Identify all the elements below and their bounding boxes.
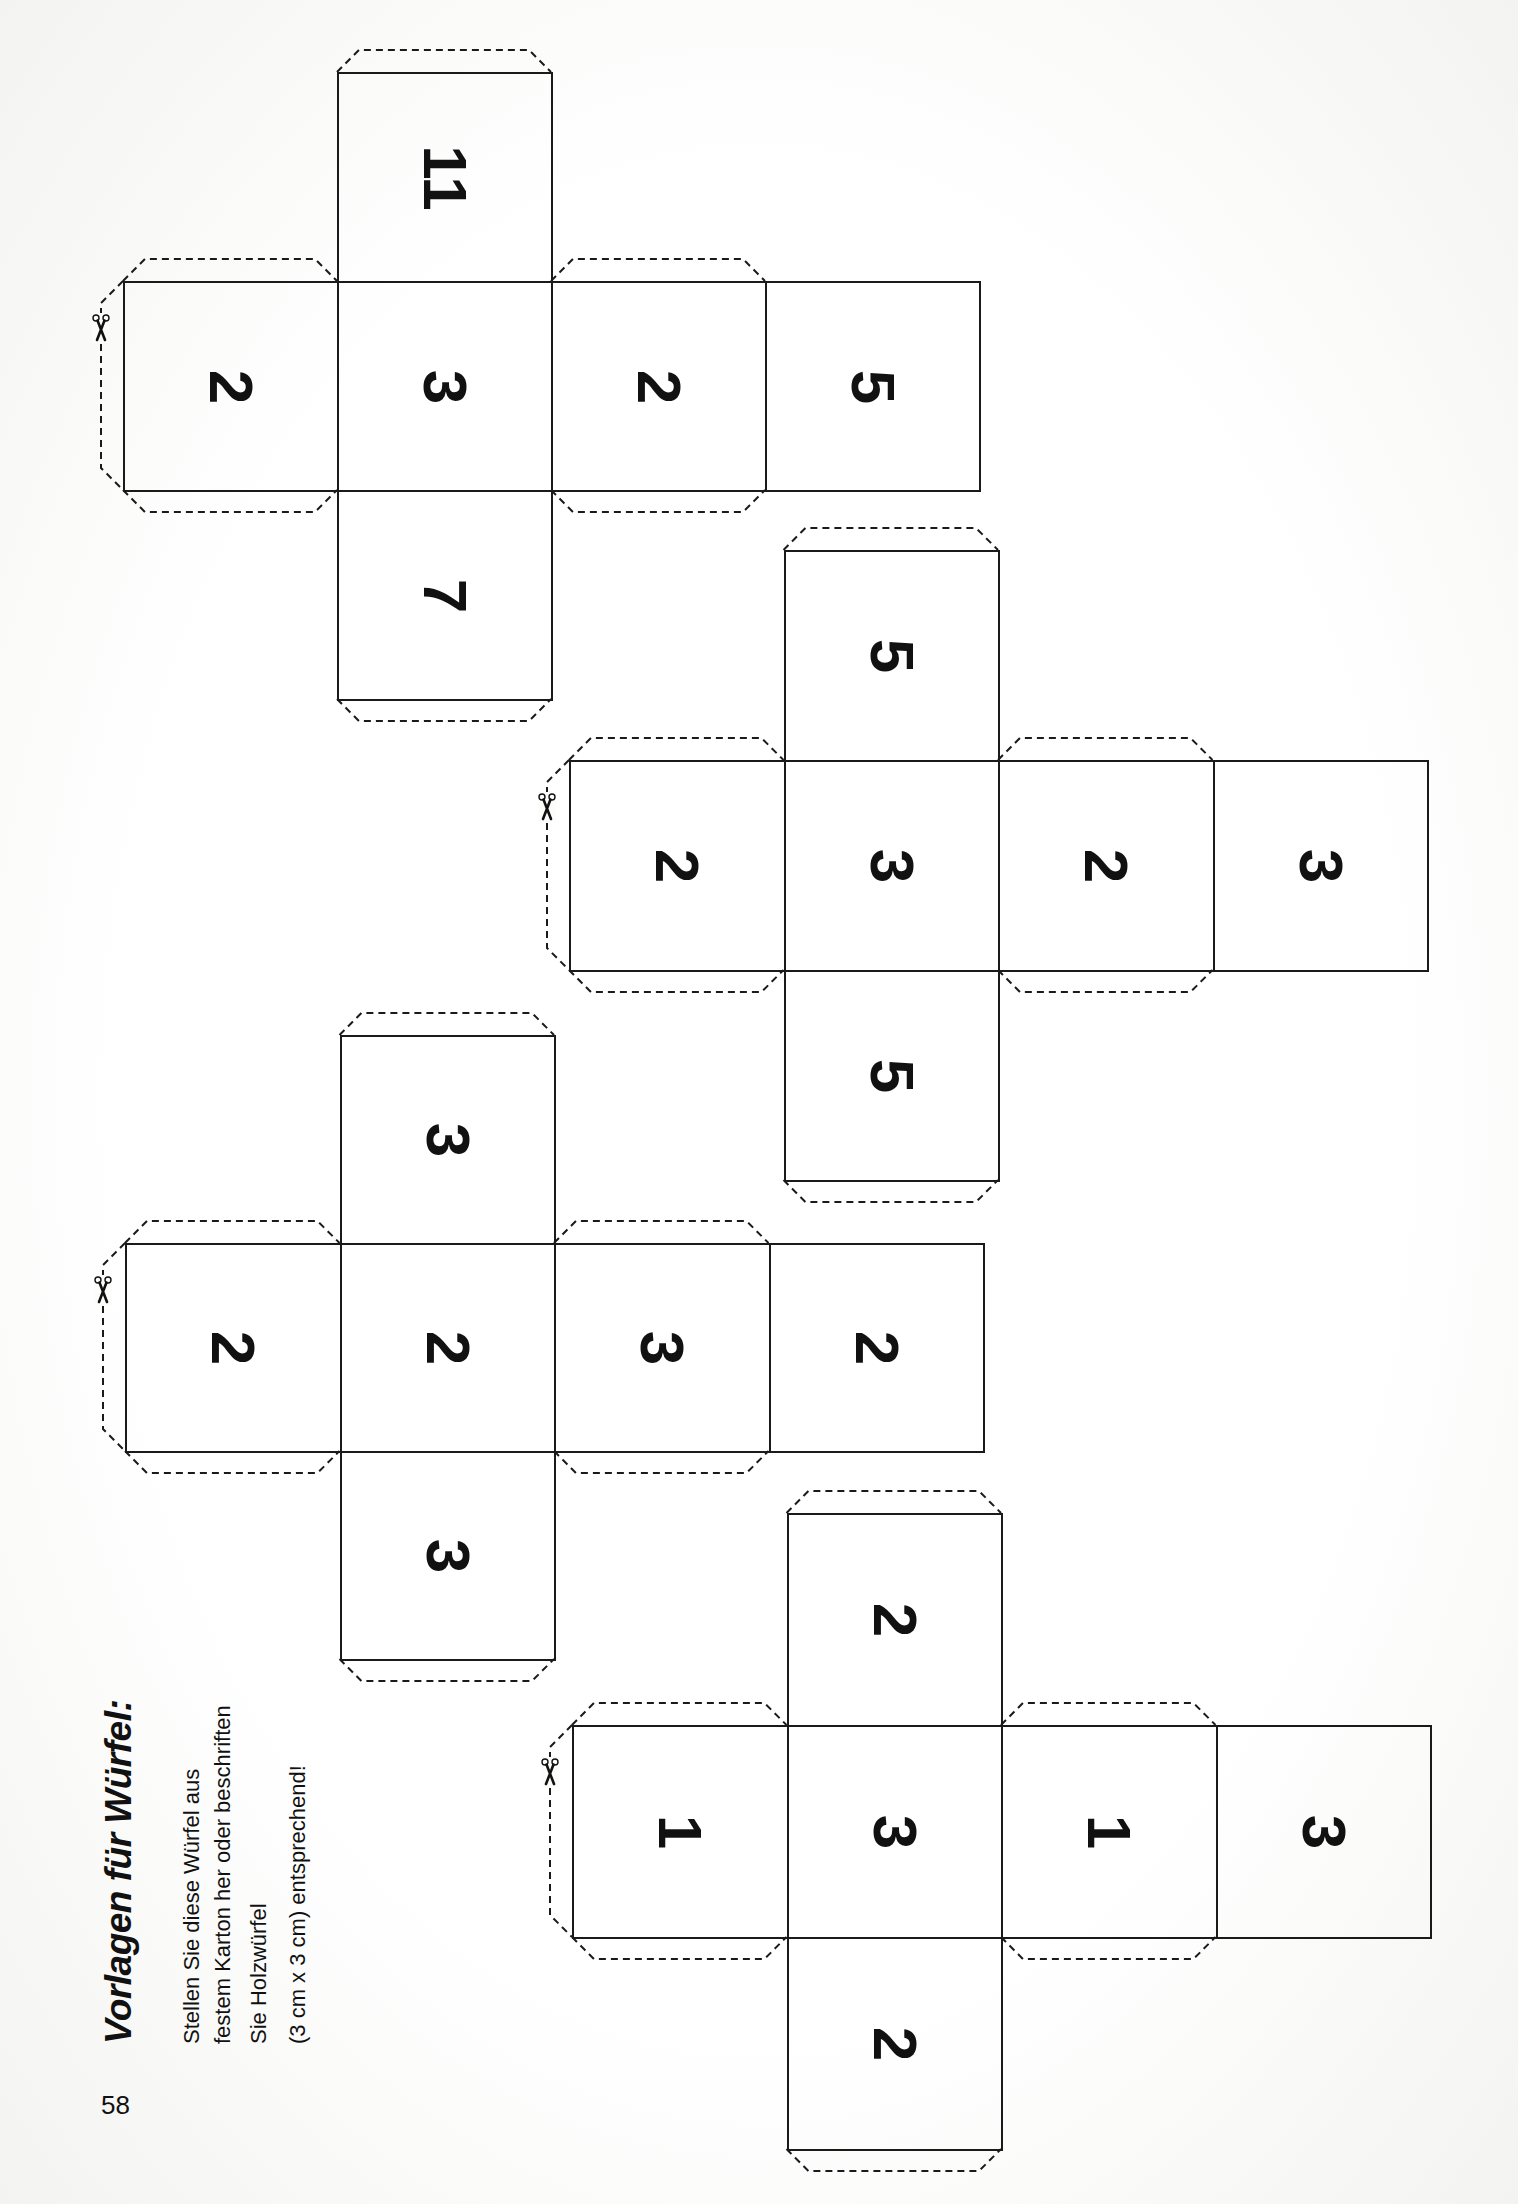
- scissors-icon: [541, 1757, 559, 1787]
- face-number: 2: [1075, 849, 1137, 883]
- face-number: 2: [864, 1603, 926, 1637]
- die-net-1-flap-col3-bottom: [551, 490, 765, 512]
- face-number: 5: [861, 1059, 923, 1093]
- die-net-2-flap-col3-bottom: [998, 970, 1213, 992]
- instruction-line-4: (3 cm x 3 cm) entsprechend!: [287, 1765, 309, 2044]
- face-number: 3: [414, 369, 476, 403]
- die-net-1-flap-top: [337, 50, 551, 72]
- die-net-4-face-row-1: 1: [572, 1725, 789, 1939]
- die-net-4-flap-col3-top: [1001, 1703, 1216, 1725]
- page-title: Vorlagen für Würfel:: [98, 1700, 140, 2044]
- face-number: 3: [861, 849, 923, 883]
- face-number: 3: [417, 1123, 479, 1157]
- face-number: 1: [1078, 1815, 1140, 1849]
- scissors-icon: [538, 792, 556, 822]
- page-number: 58: [101, 2090, 130, 2121]
- die-net-3-face-row-2: 2: [340, 1243, 557, 1453]
- face-number: 7: [414, 578, 476, 612]
- die-net-2-flap-top: [784, 528, 999, 550]
- die-net-3-flap-top: [340, 1013, 555, 1035]
- die-net-3-face-row-1: 2: [125, 1243, 342, 1453]
- die-net-4-face-row-4: 3: [1216, 1725, 1433, 1939]
- face-number: 3: [1293, 1815, 1355, 1849]
- die-net-2-face-row-2: 3: [784, 760, 1001, 972]
- die-net-1-flap-left-bottom: [123, 490, 337, 512]
- instruction-line-2: festem Karton her oder beschriften: [212, 1705, 234, 2044]
- scissors-icon: [94, 1275, 112, 1305]
- die-net-3-face-row-3: 3: [554, 1243, 771, 1453]
- face-number: 3: [631, 1331, 693, 1365]
- die-net-3-flap-col3-top: [554, 1221, 769, 1243]
- instruction-line-3: Sie Holzwürfel: [248, 1903, 270, 2044]
- die-net-2-flap-col3-top: [998, 738, 1213, 760]
- die-net-1-face-bottom: 7: [337, 490, 553, 701]
- die-net-4-flap-top: [787, 1491, 1002, 1513]
- die-net-2-flap-left-top: [569, 738, 784, 760]
- die-net-1-flap-left-top: [123, 259, 337, 281]
- die-net-3-flap-col3-bottom: [554, 1451, 769, 1473]
- die-net-3-face-top: 3: [340, 1035, 557, 1245]
- die-net-4-face-row-2: 3: [787, 1725, 1004, 1939]
- instruction-line-1: Stellen Sie diese Würfel aus: [181, 1769, 203, 2044]
- face-number: 2: [646, 849, 708, 883]
- die-net-4-face-bottom: 2: [787, 1937, 1004, 2151]
- face-number: 5: [861, 639, 923, 673]
- face-number: 2: [864, 2027, 926, 2061]
- die-net-3-face-bottom: 3: [340, 1451, 557, 1661]
- face-number: 2: [417, 1331, 479, 1365]
- scissors-icon: [92, 313, 110, 343]
- die-net-1-flap-col3-top: [551, 259, 765, 281]
- die-net-4-face-row-3: 1: [1001, 1725, 1218, 1939]
- die-net-2-face-top: 5: [784, 550, 1001, 762]
- die-net-1-face-top: 11: [337, 72, 553, 283]
- die-net-3-flap-left-top: [125, 1221, 340, 1243]
- die-net-4-flap-col3-bottom: [1001, 1937, 1216, 1959]
- face-number: 2: [846, 1331, 908, 1365]
- die-net-3-flap-bottom: [340, 1659, 555, 1681]
- die-net-2-flap-bottom: [784, 1180, 999, 1202]
- die-net-1-face-row-2: 3: [337, 281, 553, 492]
- die-net-2-flap-left-bottom: [569, 970, 784, 992]
- face-number: 3: [1290, 849, 1352, 883]
- die-net-1-face-row-4: 5: [765, 281, 981, 492]
- die-net-2-face-row-3: 2: [998, 760, 1215, 972]
- face-number: 2: [200, 369, 262, 403]
- die-net-3-face-row-4: 2: [769, 1243, 986, 1453]
- face-number: 1: [649, 1815, 711, 1849]
- die-net-4-face-top: 2: [787, 1513, 1004, 1727]
- face-number: 2: [628, 369, 690, 403]
- die-net-1-face-row-3: 2: [551, 281, 767, 492]
- die-net-4-flap-bottom: [787, 2149, 1002, 2171]
- face-number: 11: [414, 145, 476, 211]
- die-net-2-face-row-1: 2: [569, 760, 786, 972]
- face-number: 2: [202, 1331, 264, 1365]
- die-net-3-flap-left-bottom: [125, 1451, 340, 1473]
- die-net-2-face-bottom: 5: [784, 970, 1001, 1182]
- face-number: 3: [417, 1539, 479, 1573]
- die-net-1-flap-bottom: [337, 699, 551, 721]
- die-net-4-flap-left-bottom: [572, 1937, 787, 1959]
- face-number: 5: [842, 369, 904, 403]
- die-net-2-face-row-4: 3: [1213, 760, 1430, 972]
- die-net-1-face-row-1: 2: [123, 281, 339, 492]
- die-net-4-flap-left-top: [572, 1703, 787, 1725]
- face-number: 3: [864, 1815, 926, 1849]
